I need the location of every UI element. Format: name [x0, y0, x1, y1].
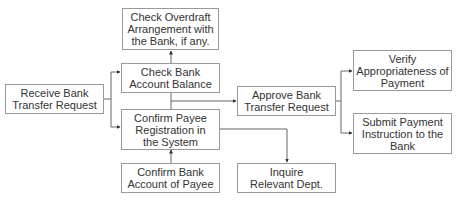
node-approve-bank-transfer-request: Approve Bank Transfer Request [237, 86, 336, 116]
node-inquire-relevant-dept: Inquire Relevant Dept. [237, 163, 336, 193]
node-verify-appropriateness-of-payment: Verify Appropriateness of Payment [353, 50, 452, 91]
node-confirm-payee-registration: Confirm Payee Registration in the System [121, 109, 220, 150]
node-check-bank-account-balance: Check Bank Account Balance [121, 63, 220, 93]
node-receive-bank-transfer-request: Receive Bank Transfer Request [5, 84, 104, 114]
node-confirm-bank-account-of-payee: Confirm Bank Account of Payee [121, 163, 220, 193]
node-check-overdraft-arrangement: Check Overdraft Arrangement with the Ban… [122, 8, 219, 50]
node-submit-payment-instruction: Submit Payment Instruction to the Bank [353, 113, 452, 154]
